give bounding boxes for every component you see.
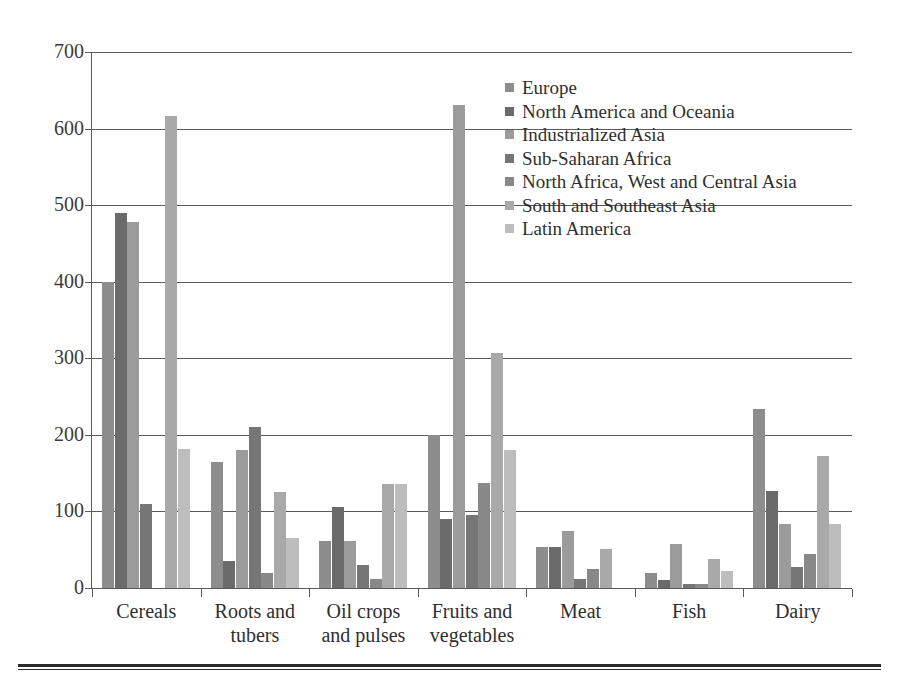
legend-swatch-icon bbox=[505, 177, 514, 186]
gridline bbox=[92, 282, 852, 283]
bar bbox=[766, 491, 778, 588]
bar bbox=[178, 449, 190, 588]
bar bbox=[428, 435, 440, 588]
bar bbox=[319, 541, 331, 588]
legend-item: Latin America bbox=[505, 217, 797, 241]
bar bbox=[357, 565, 369, 588]
x-axis-line bbox=[92, 588, 852, 589]
legend-item: Industrialized Asia bbox=[505, 123, 797, 147]
bar bbox=[504, 450, 516, 588]
bar bbox=[721, 571, 733, 588]
x-axis-tick-label-line: Dairy bbox=[731, 600, 864, 624]
legend-swatch-icon bbox=[505, 107, 514, 116]
bar bbox=[574, 579, 586, 588]
bar bbox=[249, 427, 261, 588]
bar bbox=[165, 116, 177, 588]
x-axis-tick-label-line: vegetables bbox=[406, 624, 539, 648]
bar bbox=[829, 524, 841, 588]
bar bbox=[817, 456, 829, 588]
chart-figure: 0100200300400500600700 CerealsRoots andt… bbox=[0, 0, 899, 685]
y-axis-tick-label: 0 bbox=[32, 577, 84, 597]
bar bbox=[791, 567, 803, 588]
bar bbox=[382, 484, 394, 588]
x-axis-tick-label: Dairy bbox=[731, 600, 864, 624]
bar bbox=[587, 569, 599, 588]
bar bbox=[140, 504, 152, 588]
y-axis-tick-label: 700 bbox=[32, 41, 84, 61]
y-axis: 0100200300400500600700 bbox=[0, 0, 84, 685]
legend-swatch-icon bbox=[505, 201, 514, 210]
bar bbox=[670, 544, 682, 588]
gridline bbox=[92, 435, 852, 436]
x-axis-tick bbox=[92, 589, 93, 597]
x-axis-tick bbox=[852, 589, 853, 597]
bar bbox=[683, 584, 695, 588]
legend-swatch-icon bbox=[505, 154, 514, 163]
legend-label: Europe bbox=[522, 78, 577, 97]
y-axis-tick-label: 500 bbox=[32, 194, 84, 214]
bar bbox=[102, 282, 114, 588]
legend-swatch-icon bbox=[505, 83, 514, 92]
bar bbox=[453, 105, 465, 588]
bar bbox=[274, 492, 286, 588]
bar bbox=[478, 483, 490, 588]
x-axis-tick bbox=[635, 589, 636, 597]
bar bbox=[211, 462, 223, 588]
bar bbox=[370, 579, 382, 588]
bar bbox=[491, 353, 503, 588]
legend-label: Sub-Saharan Africa bbox=[522, 149, 671, 168]
legend-item: Sub-Saharan Africa bbox=[505, 147, 797, 171]
bar bbox=[127, 222, 139, 588]
gridline bbox=[92, 358, 852, 359]
bar bbox=[549, 547, 561, 588]
bar bbox=[440, 519, 452, 588]
legend-label: North Africa, West and Central Asia bbox=[522, 172, 797, 191]
bar bbox=[261, 573, 273, 588]
bar bbox=[695, 584, 707, 588]
bar bbox=[536, 547, 548, 588]
legend-item: South and Southeast Asia bbox=[505, 194, 797, 218]
x-axis-tick bbox=[309, 589, 310, 597]
bottom-rule-secondary bbox=[18, 669, 881, 670]
bar bbox=[344, 541, 356, 588]
bar bbox=[466, 515, 478, 588]
bar bbox=[708, 559, 720, 588]
bar bbox=[236, 450, 248, 588]
legend-swatch-icon bbox=[505, 130, 514, 139]
y-axis-tick-label: 200 bbox=[32, 424, 84, 444]
bar bbox=[753, 409, 765, 588]
x-axis-tick bbox=[743, 589, 744, 597]
x-axis-tick bbox=[526, 589, 527, 597]
y-axis-tick-label: 600 bbox=[32, 118, 84, 138]
legend-label: South and Southeast Asia bbox=[522, 196, 716, 215]
bar bbox=[286, 538, 298, 588]
legend-item: North America and Oceania bbox=[505, 100, 797, 124]
bar bbox=[395, 484, 407, 588]
legend-item: North Africa, West and Central Asia bbox=[505, 170, 797, 194]
bar bbox=[562, 531, 574, 588]
bar bbox=[115, 213, 127, 588]
bar bbox=[804, 554, 816, 588]
y-axis-tick-label: 100 bbox=[32, 500, 84, 520]
bar bbox=[658, 580, 670, 588]
x-axis-tick bbox=[418, 589, 419, 597]
y-axis-tick-label: 400 bbox=[32, 271, 84, 291]
chart-legend: EuropeNorth America and OceaniaIndustria… bbox=[505, 76, 797, 241]
bar bbox=[779, 524, 791, 588]
gridline bbox=[92, 511, 852, 512]
legend-label: Industrialized Asia bbox=[522, 125, 665, 144]
bottom-rule bbox=[18, 664, 881, 667]
legend-swatch-icon bbox=[505, 224, 514, 233]
y-axis-tick-label: 300 bbox=[32, 347, 84, 367]
bar bbox=[645, 573, 657, 588]
bar bbox=[332, 507, 344, 588]
legend-label: Latin America bbox=[522, 219, 631, 238]
legend-label: North America and Oceania bbox=[522, 102, 735, 121]
bar bbox=[223, 561, 235, 588]
x-axis-tick bbox=[201, 589, 202, 597]
gridline bbox=[92, 52, 852, 53]
bar bbox=[600, 549, 612, 588]
legend-item: Europe bbox=[505, 76, 797, 100]
